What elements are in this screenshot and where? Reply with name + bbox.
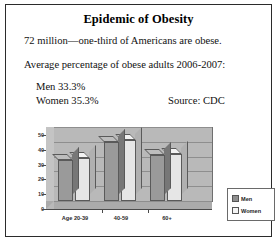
bar-side	[164, 142, 171, 195]
legend-label-women: Women	[241, 208, 261, 214]
statement-line-1: 72 million—one-third of Americans are ob…	[24, 35, 222, 46]
bar-men-1[interactable]	[104, 142, 119, 201]
bar-side	[181, 141, 188, 195]
x-axis-line	[46, 209, 212, 210]
page-title: Epidemic of Obesity	[6, 12, 271, 27]
y-axis-wall	[46, 127, 54, 209]
source-credit: Source: CDC	[168, 95, 225, 106]
obesity-bar-chart: 01020304050 Age 20-3940-5960+ Men Women	[24, 123, 220, 231]
chart-floor	[46, 201, 212, 209]
bar-side	[118, 129, 125, 195]
x-axis-tick	[148, 209, 149, 213]
x-axis-label: 60+	[162, 215, 172, 221]
slide-container: Epidemic of Obesity 72 million—one-third…	[5, 4, 272, 237]
y-axis: 01020304050	[24, 127, 46, 209]
x-axis-label: Age 20-39	[62, 215, 88, 221]
bar-men-0[interactable]	[58, 160, 73, 201]
x-axis-label: 40-59	[114, 215, 128, 221]
bar-side	[135, 127, 142, 195]
x-axis-tick	[102, 209, 103, 213]
bar-face	[104, 142, 119, 201]
statement-line-2: Average percentage of obese adults 2006-…	[24, 59, 225, 70]
chart-legend: Men Women	[227, 188, 275, 221]
stat-women: Women 35.3%	[36, 95, 99, 106]
legend-swatch-women-icon	[232, 207, 239, 214]
bar-men-2[interactable]	[150, 155, 165, 201]
bar-side	[72, 147, 79, 195]
legend-item-women[interactable]: Women	[232, 207, 271, 214]
bar-face	[150, 155, 165, 201]
bar-side	[89, 145, 96, 195]
gridline	[54, 201, 212, 202]
stat-men: Men 33.3%	[36, 81, 85, 92]
bar-face	[58, 160, 73, 201]
legend-item-men[interactable]: Men	[232, 195, 271, 202]
gridline	[54, 127, 212, 128]
legend-label-men: Men	[241, 196, 252, 202]
legend-swatch-men-icon	[232, 195, 239, 202]
plot-area	[46, 127, 212, 209]
